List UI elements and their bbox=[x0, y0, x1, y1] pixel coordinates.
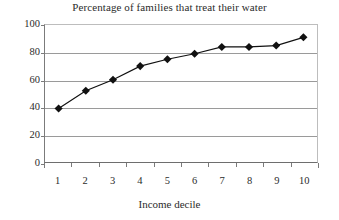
y-axis-tick-label: 100 bbox=[2, 19, 40, 30]
x-axis-tick-label: 10 bbox=[299, 176, 310, 187]
x-axis-tick-label: 7 bbox=[219, 176, 224, 187]
data-point-marker bbox=[163, 55, 171, 63]
x-axis-tick-label: 3 bbox=[110, 176, 115, 187]
data-point-marker bbox=[299, 33, 307, 41]
x-axis-tick-mark bbox=[208, 163, 209, 167]
x-axis-tick-label: 1 bbox=[55, 176, 60, 187]
x-axis-tick-mark bbox=[126, 163, 127, 167]
data-point-marker bbox=[245, 43, 253, 51]
data-point-marker bbox=[55, 105, 63, 113]
x-axis-tick-mark bbox=[71, 163, 72, 167]
y-axis-tick-label: 80 bbox=[2, 47, 40, 58]
x-axis-tick-mark bbox=[99, 163, 100, 167]
data-point-marker bbox=[272, 42, 280, 50]
x-axis-tick-label: 5 bbox=[165, 176, 170, 187]
x-axis-tick-mark bbox=[236, 163, 237, 167]
x-axis-tick-mark bbox=[263, 163, 264, 167]
y-axis-tick-label: 20 bbox=[2, 130, 40, 141]
data-point-marker bbox=[191, 50, 199, 58]
data-point-marker bbox=[136, 62, 144, 70]
x-axis-tick-label: 8 bbox=[247, 176, 252, 187]
data-series-line bbox=[45, 25, 317, 162]
x-axis-tick-mark bbox=[291, 163, 292, 167]
series-line bbox=[59, 37, 304, 108]
x-axis-tick-labels: 12345678910 bbox=[44, 176, 318, 190]
x-axis-tick-label: 2 bbox=[82, 176, 87, 187]
data-point-marker bbox=[82, 87, 90, 95]
x-axis-tick-mark bbox=[44, 163, 45, 168]
y-axis-tick-label: 40 bbox=[2, 102, 40, 113]
x-axis-tick-label: 6 bbox=[192, 176, 197, 187]
data-point-marker bbox=[218, 43, 226, 51]
y-axis-tick-labels: 020406080100 bbox=[0, 0, 40, 220]
x-axis-tick-label: 4 bbox=[137, 176, 142, 187]
y-axis-tick-label: 60 bbox=[2, 75, 40, 86]
x-axis-tick-mark bbox=[181, 163, 182, 167]
x-axis-tick-label: 9 bbox=[274, 176, 279, 187]
x-axis-tick-mark bbox=[154, 163, 155, 167]
chart-figure: Percentage of families that treat their … bbox=[0, 0, 339, 220]
data-point-marker bbox=[109, 76, 117, 84]
x-axis-tick-marks bbox=[44, 163, 319, 169]
y-axis-tick-label: 0 bbox=[2, 158, 40, 169]
x-axis-title: Income decile bbox=[0, 198, 339, 210]
chart-title: Percentage of families that treat their … bbox=[0, 1, 339, 13]
plot-area bbox=[44, 24, 318, 163]
x-axis-tick-mark bbox=[318, 163, 319, 168]
